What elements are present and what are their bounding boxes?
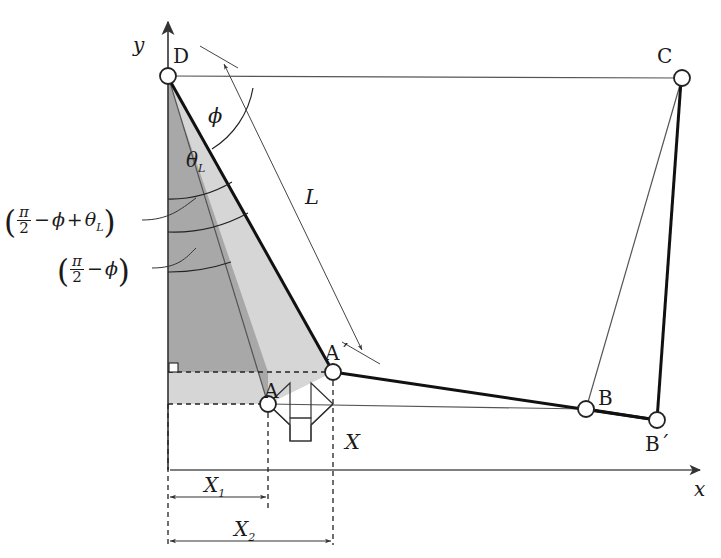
link-B-Bprime xyxy=(586,409,657,420)
minus-operator-b: − xyxy=(85,257,105,279)
x-axis-label: x xyxy=(694,477,705,501)
fraction-pi-over-2-a: π2 xyxy=(17,205,31,236)
dimension-label-X2: X2 xyxy=(234,517,255,544)
fraction-pi-over-2-b: π2 xyxy=(70,254,84,285)
dimension-label-X1: X1 xyxy=(204,473,225,500)
angle-expression-2: (π2−ϕ) xyxy=(57,252,130,288)
paren-close-2: ) xyxy=(118,253,130,289)
dimension-label-L: L xyxy=(305,185,319,209)
angle-label-theta-L: θL xyxy=(186,148,205,175)
theta-glyph: θ xyxy=(186,148,198,172)
phi-glyph-b: ϕ xyxy=(105,257,118,279)
numerator-pi-b: π xyxy=(70,254,84,269)
X-arrow-shape xyxy=(268,404,333,441)
X2-subscript: 2 xyxy=(248,531,255,544)
theta-glyph-a: θ xyxy=(85,208,96,230)
theta-subscript-a: L xyxy=(96,221,103,234)
node-Aprime xyxy=(325,364,341,380)
point-label-D: D xyxy=(173,44,189,68)
node-Bprime xyxy=(649,412,665,428)
denominator-2-b: 2 xyxy=(70,269,84,285)
phi-glyph-a: ϕ xyxy=(52,208,65,230)
link-B-C-thin xyxy=(586,78,682,409)
X2-glyph: X xyxy=(234,517,248,541)
geometry-figure: y x D C A A´ B B´ ϕ θL L X X1 X2 (π2−ϕ+θ… xyxy=(0,0,721,558)
link-A-B-thin xyxy=(268,404,586,409)
right-angle-marker xyxy=(169,363,178,372)
paren-open-2: ( xyxy=(57,253,69,289)
theta-subscript: L xyxy=(198,162,205,175)
point-label-C: C xyxy=(657,44,672,68)
X1-subscript: 1 xyxy=(218,487,225,500)
X1-glyph: X xyxy=(204,473,218,497)
node-B xyxy=(578,401,594,417)
paren-open-1: ( xyxy=(4,204,16,240)
plus-operator-a: + xyxy=(65,208,85,230)
paren-close-1: ) xyxy=(104,204,116,240)
point-label-Aprime: A´ xyxy=(325,341,349,365)
dimension-label-X: X xyxy=(345,430,360,454)
link-Bprime-C xyxy=(657,81,681,420)
angle-label-phi: ϕ xyxy=(208,104,222,128)
node-C xyxy=(674,70,690,86)
denominator-2-a: 2 xyxy=(17,220,31,236)
minus-operator-a: − xyxy=(32,208,52,230)
numerator-pi-a: π xyxy=(17,205,31,220)
L-tick-start xyxy=(200,46,238,68)
angle-expression-1: (π2−ϕ+θL) xyxy=(4,203,116,239)
point-label-B: B xyxy=(598,386,613,410)
link-D-C-thin xyxy=(168,76,682,78)
point-label-Bprime: B´ xyxy=(645,432,670,456)
node-D xyxy=(160,68,176,84)
point-label-A: A xyxy=(264,379,278,403)
y-axis-label: y xyxy=(133,33,144,57)
